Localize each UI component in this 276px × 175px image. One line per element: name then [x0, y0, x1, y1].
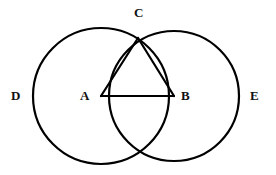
figure-canvas: [0, 0, 276, 175]
vertex-label-a: A: [80, 89, 89, 102]
vertex-label-b: B: [181, 89, 190, 102]
figure-background: [0, 0, 276, 175]
region-label-d: D: [11, 89, 20, 102]
region-label-e: E: [250, 89, 259, 102]
vertex-label-c: C: [134, 6, 143, 19]
geometry-figure: C D A B E: [0, 0, 276, 175]
